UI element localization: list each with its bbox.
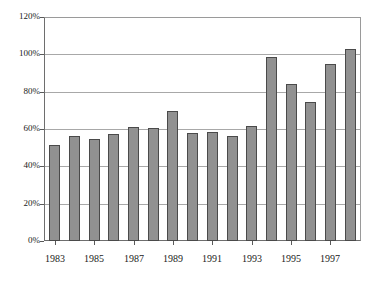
bar-1996 [305, 102, 316, 241]
y-tick-label: 100% [2, 49, 40, 58]
y-tick-mark [40, 241, 44, 242]
x-tick-label: 1985 [74, 253, 114, 264]
bar-1983 [49, 145, 60, 241]
y-tick-label: 120% [2, 12, 40, 21]
x-tick-mark [212, 241, 213, 245]
x-tick-label: 1983 [35, 253, 75, 264]
x-tick-mark [173, 241, 174, 245]
bar-1988 [148, 128, 159, 241]
x-tick-label: 1991 [192, 253, 232, 264]
bar-1994 [266, 57, 277, 241]
y-tick-label: 60% [2, 124, 40, 133]
bar-1991 [207, 132, 218, 241]
bar-chart: 0%20%40%60%80%100%120% 19831985198719891… [0, 0, 376, 289]
x-tick-mark [252, 241, 253, 245]
bar-1987 [128, 127, 139, 241]
y-tick-label: 20% [2, 199, 40, 208]
y-tick-label: 0% [2, 236, 40, 245]
bar-1984 [69, 136, 80, 241]
bar-1990 [187, 133, 198, 241]
x-tick-label: 1993 [232, 253, 272, 264]
x-tick-mark [94, 241, 95, 245]
y-tick-label: 80% [2, 87, 40, 96]
x-tick-mark [55, 241, 56, 245]
bar-1986 [108, 134, 119, 241]
y-tick-label: 40% [2, 161, 40, 170]
bar-1998 [345, 49, 356, 241]
x-tick-mark [330, 241, 331, 245]
bar-1997 [325, 64, 336, 241]
bar-1992 [227, 136, 238, 241]
x-tick-label: 1997 [310, 253, 350, 264]
x-tick-mark [134, 241, 135, 245]
x-tick-label: 1995 [271, 253, 311, 264]
x-tick-mark [291, 241, 292, 245]
bar-1993 [246, 126, 257, 241]
bar-1985 [89, 139, 100, 241]
bar-series [45, 18, 360, 241]
x-tick-label: 1987 [114, 253, 154, 264]
x-tick-label: 1989 [153, 253, 193, 264]
bar-1989 [167, 111, 178, 241]
bar-1995 [286, 84, 297, 241]
